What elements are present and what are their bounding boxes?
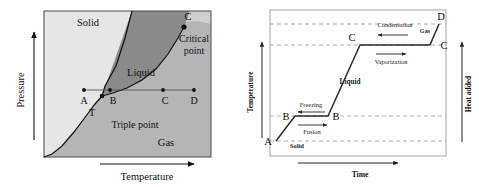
triple-point-caption: Triple point	[111, 119, 158, 130]
path-point-c-label: C	[162, 95, 169, 106]
heating-curve-svg: Solid Liquid Gas Freezing Fusion Vaporiz…	[240, 0, 479, 187]
freezing-label: Freezing	[300, 101, 323, 108]
path-point-a-label: A	[80, 95, 88, 106]
path-point-b-marker	[108, 88, 112, 92]
heating-point-c-right-label: C	[440, 40, 447, 51]
path-point-a-marker	[82, 88, 86, 92]
vaporization-label: Vaporization	[375, 58, 408, 65]
time-axis-label: Time	[352, 170, 369, 179]
heating-point-d-label: D	[437, 11, 445, 22]
phase-diagram-panel: Solid Liquid Gas A B C D T Triple point …	[0, 0, 240, 187]
critical-point-caption-line1: Critical	[179, 33, 209, 44]
figure-root: Solid Liquid Gas A B C D T Triple point …	[0, 0, 479, 187]
temperature-axis-label: Temperature	[121, 171, 174, 182]
critical-point-label: C	[184, 11, 191, 22]
heating-temperature-axis-label: Temperature	[246, 71, 255, 113]
phase-diagram-svg: Solid Liquid Gas A B C D T Triple point …	[0, 0, 240, 187]
segment-label-solid: Solid	[290, 142, 304, 149]
heating-curve-panel: Solid Liquid Gas Freezing Fusion Vaporiz…	[240, 0, 479, 187]
heating-point-b-left-label: B	[282, 111, 289, 122]
triple-point-label: T	[89, 107, 95, 118]
heating-point-c-left-label: C	[348, 32, 355, 43]
path-point-b-label: B	[110, 95, 117, 106]
segment-label-gas: Gas	[420, 27, 431, 34]
path-point-d-label: D	[190, 95, 197, 106]
fusion-label: Fusion	[303, 128, 321, 135]
segment-label-liquid: Liquid	[340, 78, 361, 86]
heat-added-axis-label: Heat added	[464, 75, 473, 112]
region-label-liquid: Liquid	[127, 67, 156, 78]
region-label-gas: Gas	[158, 137, 174, 148]
pressure-axis-label: Pressure	[15, 72, 26, 108]
critical-point-caption-line2: point	[184, 45, 205, 56]
triple-point-marker	[100, 94, 105, 99]
path-point-c-marker	[161, 88, 165, 92]
region-label-solid: Solid	[77, 17, 100, 28]
path-point-d-marker	[192, 88, 196, 92]
condensation-label: Condensation	[377, 21, 413, 28]
heating-point-a-label: A	[264, 136, 272, 147]
heating-point-b-right-label: B	[332, 111, 339, 122]
critical-point-marker	[181, 24, 186, 29]
